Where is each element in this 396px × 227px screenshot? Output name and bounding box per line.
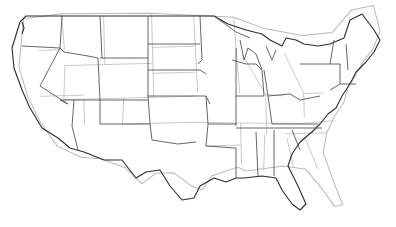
reference-outline-layer — [12, 14, 380, 210]
us-state-map — [0, 0, 396, 227]
